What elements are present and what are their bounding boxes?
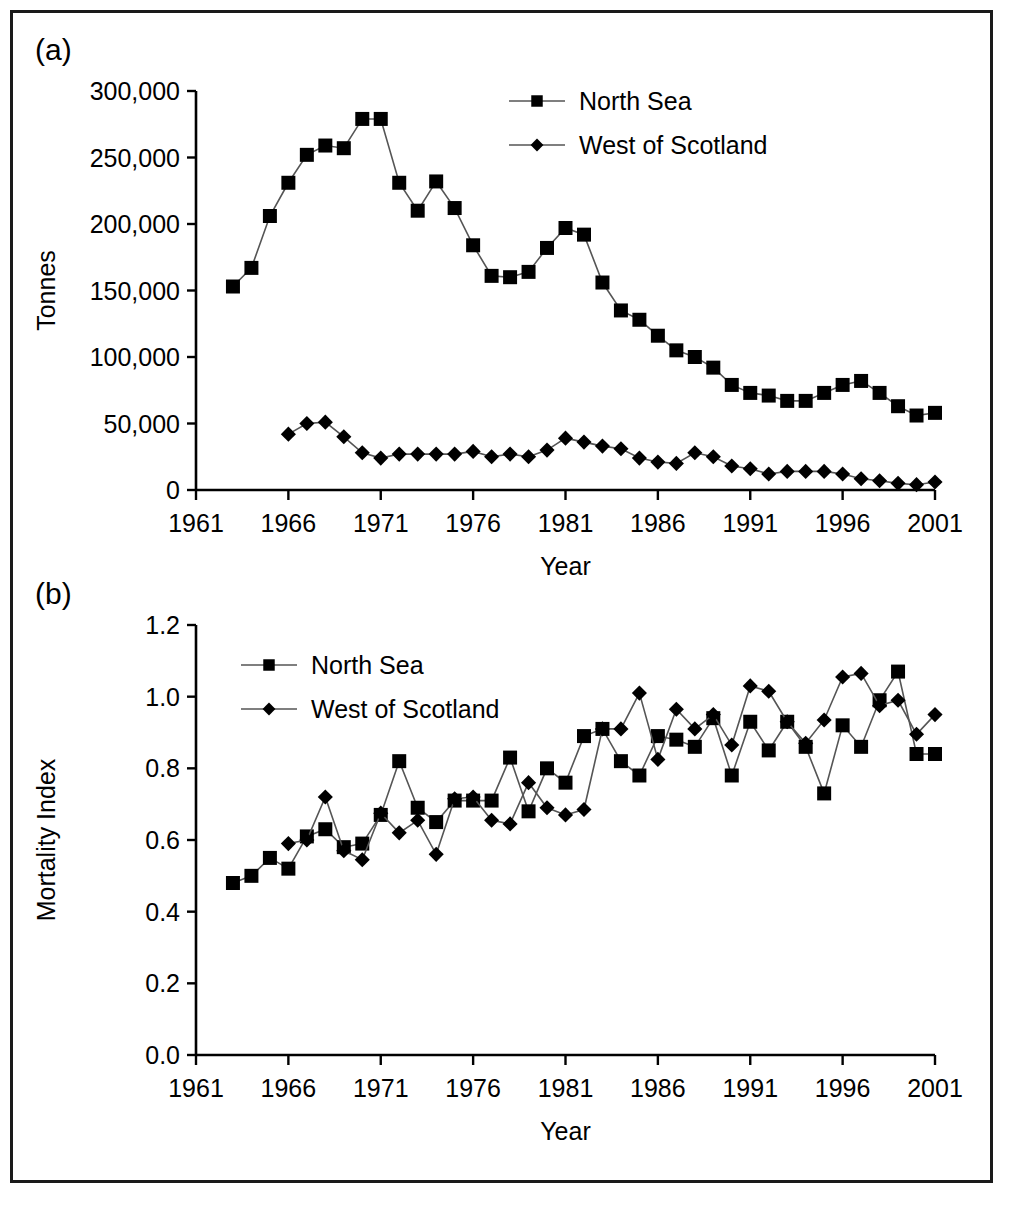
data-point-west-of-scotland xyxy=(872,473,887,488)
data-point-north-sea xyxy=(669,733,683,747)
data-point-north-sea xyxy=(429,174,443,188)
legend-label-north-sea: North Sea xyxy=(311,651,424,679)
y-tick-label: 0.4 xyxy=(145,898,180,926)
data-point-north-sea xyxy=(540,761,554,775)
data-point-north-sea xyxy=(669,343,683,357)
x-tick-label: 1991 xyxy=(722,1074,778,1102)
data-point-north-sea xyxy=(928,406,942,420)
data-point-west-of-scotland xyxy=(521,775,536,790)
chart-panel-b: (b) 0.00.20.40.60.81.01.2196119661971197… xyxy=(13,583,990,1183)
data-point-north-sea xyxy=(281,862,295,876)
y-axis-title: Mortality Index xyxy=(32,758,60,921)
data-point-north-sea xyxy=(891,665,905,679)
data-point-north-sea xyxy=(263,209,277,223)
data-point-north-sea xyxy=(928,747,942,761)
y-tick-label: 0.2 xyxy=(145,969,180,997)
x-tick-label: 1976 xyxy=(445,509,501,537)
data-point-west-of-scotland xyxy=(281,836,296,851)
data-point-west-of-scotland xyxy=(613,441,628,456)
data-point-north-sea xyxy=(559,221,573,235)
data-point-west-of-scotland xyxy=(521,449,536,464)
data-point-north-sea xyxy=(817,386,831,400)
data-point-north-sea xyxy=(614,303,628,317)
data-point-north-sea xyxy=(411,204,425,218)
y-tick-label: 0 xyxy=(166,476,180,504)
data-point-north-sea xyxy=(374,112,388,126)
chart-panel-a: (a) 050,000100,000150,000200,000250,0003… xyxy=(13,13,990,583)
data-point-north-sea xyxy=(522,804,536,818)
data-point-west-of-scotland xyxy=(318,415,333,430)
x-tick-label: 1991 xyxy=(722,509,778,537)
legend-marker-west-of-scotland xyxy=(531,139,544,152)
data-point-west-of-scotland xyxy=(503,816,518,831)
legend-label-north-sea: North Sea xyxy=(579,87,692,115)
data-point-north-sea xyxy=(411,801,425,815)
x-tick-label: 1996 xyxy=(815,1074,871,1102)
data-point-west-of-scotland xyxy=(761,684,776,699)
data-point-north-sea xyxy=(318,139,332,153)
data-point-west-of-scotland xyxy=(503,447,518,462)
y-axis-title: Tonnes xyxy=(32,250,60,331)
data-point-west-of-scotland xyxy=(429,847,444,862)
data-point-north-sea xyxy=(614,754,628,768)
data-point-north-sea xyxy=(226,280,240,294)
data-point-north-sea xyxy=(485,269,499,283)
data-point-north-sea xyxy=(688,350,702,364)
data-point-west-of-scotland xyxy=(761,466,776,481)
data-point-north-sea xyxy=(632,769,646,783)
data-point-north-sea xyxy=(836,718,850,732)
x-tick-label: 1971 xyxy=(353,1074,409,1102)
y-tick-label: 1.2 xyxy=(145,611,180,639)
data-point-west-of-scotland xyxy=(318,789,333,804)
y-tick-label: 0.0 xyxy=(145,1041,180,1069)
data-point-west-of-scotland xyxy=(669,456,684,471)
x-axis-title: Year xyxy=(540,552,591,580)
y-tick-label: 300,000 xyxy=(90,77,180,105)
data-point-west-of-scotland xyxy=(835,466,850,481)
data-point-west-of-scotland xyxy=(484,813,499,828)
data-point-north-sea xyxy=(503,751,517,765)
data-point-north-sea xyxy=(632,313,646,327)
y-tick-label: 1.0 xyxy=(145,683,180,711)
data-point-north-sea xyxy=(244,261,258,275)
data-point-north-sea xyxy=(226,876,240,890)
data-point-north-sea xyxy=(466,238,480,252)
data-point-north-sea xyxy=(891,399,905,413)
data-point-west-of-scotland xyxy=(576,802,591,817)
data-point-north-sea xyxy=(392,176,406,190)
data-point-west-of-scotland xyxy=(706,449,721,464)
data-point-west-of-scotland xyxy=(613,721,628,736)
legend-label-west-of-scotland: West of Scotland xyxy=(311,695,500,723)
data-point-north-sea xyxy=(559,776,573,790)
data-point-north-sea xyxy=(355,112,369,126)
data-point-west-of-scotland xyxy=(281,427,296,442)
data-point-north-sea xyxy=(392,754,406,768)
data-point-north-sea xyxy=(762,743,776,757)
data-point-west-of-scotland xyxy=(743,461,758,476)
data-point-west-of-scotland xyxy=(373,451,388,466)
data-point-west-of-scotland xyxy=(447,447,462,462)
data-point-west-of-scotland xyxy=(743,678,758,693)
data-point-west-of-scotland xyxy=(890,476,905,491)
x-tick-label: 1996 xyxy=(815,509,871,537)
y-tick-label: 50,000 xyxy=(104,410,180,438)
y-tick-label: 200,000 xyxy=(90,210,180,238)
series-line-north-sea xyxy=(233,119,935,416)
x-tick-label: 1961 xyxy=(168,509,224,537)
data-point-west-of-scotland xyxy=(558,807,573,822)
data-point-north-sea xyxy=(780,394,794,408)
y-tick-label: 0.8 xyxy=(145,754,180,782)
data-point-north-sea xyxy=(725,769,739,783)
data-point-west-of-scotland xyxy=(558,431,573,446)
data-point-north-sea xyxy=(577,228,591,242)
data-point-north-sea xyxy=(762,389,776,403)
data-point-west-of-scotland xyxy=(687,445,702,460)
data-point-west-of-scotland xyxy=(817,712,832,727)
legend-label-west-of-scotland: West of Scotland xyxy=(579,131,768,159)
data-point-west-of-scotland xyxy=(576,435,591,450)
data-point-west-of-scotland xyxy=(632,451,647,466)
panel-b-plot: 0.00.20.40.60.81.01.21961196619711976198… xyxy=(13,583,990,1183)
data-point-west-of-scotland xyxy=(355,852,370,867)
data-point-west-of-scotland xyxy=(798,464,813,479)
y-tick-label: 150,000 xyxy=(90,277,180,305)
